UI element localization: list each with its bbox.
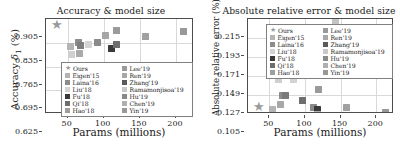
legend-swatch <box>323 42 328 47</box>
legend-label: Hu'19 <box>130 93 148 100</box>
y-tick-mark <box>241 93 244 94</box>
data-point <box>102 32 109 39</box>
legend-label: Liu'18 <box>278 48 297 55</box>
y-axis-label-main: Accuracy <box>9 60 20 110</box>
x-tick-mark <box>304 115 305 118</box>
star-icon: ★ <box>65 66 70 71</box>
legend-label: Hao'18 <box>278 69 300 76</box>
legend-item[interactable]: Zhang'19 <box>323 41 389 48</box>
y-tick-label: 0.215 <box>217 32 244 41</box>
y-tick-label: 0.625 <box>15 127 42 136</box>
legend-swatch <box>323 63 328 68</box>
y-tick-mark <box>241 55 244 56</box>
legend-item[interactable]: ★Ours <box>65 65 117 72</box>
legend-label: Chen'19 <box>130 100 155 107</box>
x-axis-label-abs-rel-error: Params (millions) <box>247 126 393 138</box>
legend-swatch <box>270 63 275 68</box>
legend-swatch <box>122 94 127 99</box>
legend-item[interactable]: Ren'19 <box>122 72 189 79</box>
legend-item[interactable]: Qi'18 <box>65 100 117 107</box>
y-tick-label: 0.171 <box>217 70 244 79</box>
y-tick-mark <box>39 131 42 132</box>
legend-swatch <box>122 80 127 85</box>
y-tick-mark <box>241 112 244 113</box>
y-tick-mark <box>241 74 244 75</box>
legend-item[interactable]: Liu'18 <box>270 48 318 55</box>
legend-item[interactable]: Hu'19 <box>323 55 389 62</box>
data-point <box>277 101 284 108</box>
legend-item[interactable]: Yin'19 <box>122 107 189 114</box>
legend-item[interactable]: Fu'18 <box>65 93 117 100</box>
legend-swatch <box>323 28 328 33</box>
legend-item[interactable]: Ren'19 <box>323 34 389 41</box>
legend-item[interactable]: Ramamonjisoa'19 <box>323 48 389 55</box>
data-point <box>76 50 83 57</box>
legend-label: Yin'19 <box>130 107 149 114</box>
data-point <box>142 33 149 40</box>
legend-label: Eigen'15 <box>278 34 305 41</box>
legend-swatch <box>65 108 70 113</box>
legend-item[interactable]: Lee'19 <box>122 65 189 72</box>
legend-item[interactable]: Liu'18 <box>65 86 117 93</box>
legend-item[interactable]: Chen'19 <box>323 62 389 69</box>
y-tick-label: 0.105 <box>217 127 244 136</box>
legend-accuracy: ★OursEigen'15Laina'16Liu'18Fu'18Qi'18Hao… <box>61 62 193 117</box>
legend-label: Fu'18 <box>73 93 90 100</box>
legend-swatch <box>122 73 127 78</box>
panel-abs-rel-error: Absolute relative error & model size 0.2… <box>200 0 400 148</box>
legend-label: Ren'19 <box>331 34 352 41</box>
legend-label: Lee'19 <box>130 65 150 72</box>
legend-item[interactable]: Yin'19 <box>323 69 389 76</box>
legend-column-left: ★OursEigen'15Laina'16Liu'18Fu'18Qi'18Hao… <box>270 27 318 76</box>
legend-item[interactable]: Fu'18 <box>270 55 318 62</box>
legend-item[interactable]: Lee'19 <box>323 27 389 34</box>
legend-item[interactable]: Laina'16 <box>270 41 318 48</box>
legend-label: Laina'16 <box>73 79 99 86</box>
legend-column-right: Lee'19Ren'19Zhang'19Ramamonjisoa'19Hu'19… <box>122 65 189 114</box>
y-axis-label-abs-rel-error: Absolute relative error (%) <box>211 0 221 116</box>
legend-item[interactable]: Hao'18 <box>65 107 117 114</box>
y-tick-mark <box>39 60 42 61</box>
legend-item[interactable]: Chen'19 <box>122 100 189 107</box>
y-axis-label-tail: (%) <box>9 29 20 49</box>
legend-swatch <box>65 73 70 78</box>
legend-abs-rel-error: ★OursEigen'15Laina'16Liu'18Fu'18Qi'18Hao… <box>266 24 393 79</box>
legend-swatch <box>270 42 275 47</box>
legend-swatch <box>270 49 275 54</box>
y-tick-label: 0.149 <box>217 89 244 98</box>
legend-swatch <box>270 56 275 61</box>
data-point <box>94 39 101 46</box>
legend-label: Hu'19 <box>331 55 349 62</box>
legend-item[interactable]: Zhang'19 <box>122 79 189 86</box>
legend-label: Hao'18 <box>73 107 95 114</box>
legend-item[interactable]: ★Ours <box>270 27 318 34</box>
legend-item[interactable]: Ramamonjisoa'19 <box>122 86 189 93</box>
legend-item[interactable]: Eigen'15 <box>270 34 318 41</box>
panel-accuracy: Accuracy & model size 0.9050.8350.7650.6… <box>0 0 200 148</box>
legend-item[interactable]: Hao'18 <box>270 69 318 76</box>
data-point <box>382 109 389 113</box>
legend-item[interactable]: Laina'16 <box>65 79 117 86</box>
x-tick-mark <box>268 115 269 118</box>
legend-label: Chen'19 <box>331 62 356 69</box>
legend-label: Qi'18 <box>73 100 89 107</box>
data-point <box>68 51 75 58</box>
y-tick-mark <box>39 36 42 37</box>
legend-column-right: Lee'19Ren'19Zhang'19Ramamonjisoa'19Hu'19… <box>323 27 389 76</box>
data-point <box>85 41 92 48</box>
legend-item[interactable]: Eigen'15 <box>65 72 117 79</box>
data-point <box>113 41 120 48</box>
legend-swatch <box>270 70 275 75</box>
legend-label: Ours <box>278 27 293 34</box>
legend-item[interactable]: Hu'19 <box>122 93 189 100</box>
y-tick-label: 0.127 <box>217 108 244 117</box>
legend-swatch <box>122 101 127 106</box>
legend-swatch <box>323 56 328 61</box>
legend-label: Ramamonjisoa'19 <box>130 86 184 93</box>
legend-label: Laina'16 <box>278 41 304 48</box>
chart-title-abs-rel-error: Absolute relative error & model size <box>218 5 400 16</box>
legend-swatch <box>65 80 70 85</box>
legend-label: Fu'18 <box>278 55 295 62</box>
legend-label: Zhang'19 <box>130 79 159 86</box>
legend-item[interactable]: Qi'18 <box>270 62 318 69</box>
